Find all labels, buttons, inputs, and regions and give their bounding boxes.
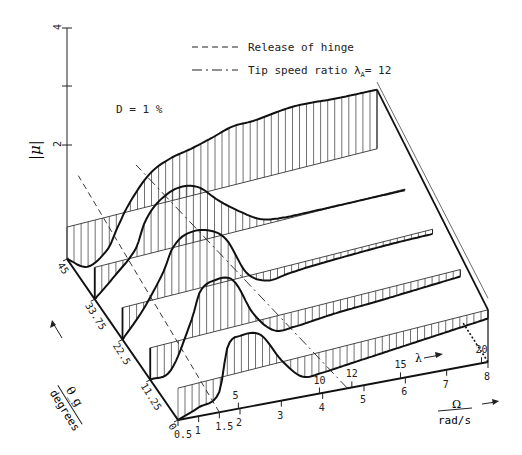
omega-axis-title: Ω rad/s: [438, 398, 499, 427]
z-axis-tick-label: 4: [52, 24, 63, 30]
theta-arrow-icon: [50, 320, 62, 338]
omega-tick-label: 3: [277, 410, 283, 421]
omega-tick-label: 5: [360, 394, 366, 405]
legend-label-tip-speed: Tip speed ratio λA= 12: [248, 64, 391, 79]
omega-tick-label: 8: [484, 371, 490, 382]
curve-series: [95, 186, 405, 299]
omega-tick-label: 2: [236, 417, 242, 428]
lambda-arrow-icon: [424, 352, 443, 358]
surface-chart: 24011.2522.533.75450.511.523456785101215…: [0, 0, 522, 455]
omega-tick-label: 0.5: [174, 429, 192, 440]
theta-tick-label: 33.75: [83, 300, 108, 331]
lambda-tick-label: 10: [313, 375, 325, 386]
lambda-tick-label: 20: [476, 344, 488, 355]
lambda-axis-label: λ: [415, 352, 422, 365]
legend-label-release: Release of hinge: [248, 41, 354, 54]
omega-tick-label: 4: [319, 402, 325, 413]
omega-axis-line: [178, 362, 488, 420]
lambda-tick-label: 5: [232, 390, 238, 401]
lambda-tick-label: 15: [394, 359, 406, 370]
omega-tick-label: 7: [443, 379, 449, 390]
z-axis-tick-label: 2: [52, 141, 63, 147]
lambda-tick-label: 12: [346, 368, 358, 379]
omega-tick-label: 1.5: [215, 421, 233, 432]
omega-tick-label: 6: [401, 386, 407, 397]
reference-line: [150, 270, 460, 348]
omega-axis-unit: rad/s: [438, 414, 471, 427]
theta-axis-title: θ_g degrees: [46, 377, 96, 433]
damping-annotation: D = 1 %: [116, 103, 163, 116]
right-outer-edge: [377, 82, 488, 298]
legend: Release of hinge Tip speed ratio λA= 12: [192, 41, 391, 79]
reference-line: [123, 229, 433, 307]
theta-tick-label: 22.5: [111, 341, 133, 367]
curve-series: [123, 230, 433, 340]
z-axis-label: |μ|: [26, 140, 44, 160]
reference-line: [178, 310, 488, 388]
chart-geometry: 24011.2522.533.75450.511.523456785101215…: [52, 24, 490, 440]
dotted-end-marker: [463, 323, 488, 362]
curve-series: [178, 319, 488, 421]
lambda-axis-title: λ: [415, 352, 443, 365]
theta-tick-label: 11.25: [139, 381, 164, 412]
omega-tick-label: 1: [195, 425, 201, 436]
omega-arrow-icon: [482, 399, 499, 405]
